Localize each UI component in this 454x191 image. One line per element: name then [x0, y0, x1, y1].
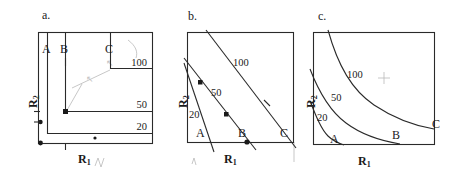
panel-c-label-C: C [432, 117, 440, 131]
panel-c-contour-20 [310, 101, 344, 145]
panel-a-label-C: C [105, 42, 113, 56]
figure-container: a. R2 R1 ↖ ↖ [0, 0, 454, 191]
panel-a-dot-1 [93, 136, 96, 139]
panel-a-marker-origin [38, 141, 43, 146]
panel-a-label-B: B [60, 42, 68, 56]
panel-b-marker-3 [244, 139, 249, 144]
panel-c: c. R2 R1 20 50 100 A B C [300, 0, 454, 191]
panel-b-plot: 20 50 100 A B C [170, 0, 310, 191]
panel-c-plot: 20 50 100 A B C [300, 0, 454, 191]
panel-a: a. R2 R1 ↖ ↖ [0, 0, 170, 191]
panel-c-artifacts [378, 72, 390, 84]
panel-c-value-100: 100 [347, 69, 363, 80]
panel-b-value-20: 20 [189, 109, 200, 120]
panel-a-marker-b [63, 109, 68, 114]
panel-b: b. R2 R1 20 50 [170, 0, 310, 191]
panel-b-label-C: C [280, 126, 288, 140]
panel-c-contour-100 [328, 30, 434, 129]
panel-b-marker-2 [224, 112, 229, 117]
panel-b-artifacts [192, 142, 294, 165]
panel-b-label-A: A [196, 126, 205, 140]
panel-c-label-B: B [392, 128, 400, 142]
panel-b-marker-1 [198, 80, 203, 85]
panel-b-label-B: B [238, 126, 246, 140]
panel-a-label-A: A [42, 42, 51, 56]
panel-c-contour-50 [310, 69, 400, 144]
panel-a-value-20: 20 [137, 121, 148, 132]
panel-c-value-50: 50 [331, 92, 342, 103]
svg-text:↖: ↖ [86, 74, 94, 84]
panel-a-artifacts: ↖ ↖ [66, 40, 137, 167]
panel-c-value-20: 20 [317, 112, 328, 123]
panel-a-plot: ↖ ↖ A B C [0, 0, 170, 191]
panel-c-frame [314, 33, 435, 145]
panel-b-value-100: 100 [233, 57, 249, 68]
panel-a-value-50: 50 [137, 99, 148, 110]
panel-b-tick-1 [264, 100, 270, 106]
panel-b-value-50: 50 [211, 87, 222, 98]
panel-a-value-100: 100 [131, 57, 147, 68]
panel-c-label-A: A [330, 132, 339, 146]
